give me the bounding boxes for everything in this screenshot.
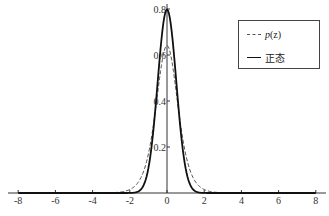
solid-line-swatch-icon	[247, 57, 261, 58]
y-tick-label: 0.2	[154, 142, 167, 153]
x-tick-label: 2	[202, 195, 207, 206]
y-ticks: 0.20.40.60.8	[154, 4, 171, 153]
legend-label-pz-suffix: (z)	[270, 29, 281, 40]
x-tick-label: 6	[276, 195, 281, 206]
x-tick-label: -2	[126, 195, 134, 206]
x-tick-label: 0	[165, 195, 170, 206]
y-tick-label: 0.8	[154, 4, 167, 15]
dashed-line-swatch-icon	[247, 34, 261, 35]
legend-item-pz: p(z)	[247, 29, 281, 40]
legend: p(z) 正态	[238, 20, 320, 69]
legend-item-normal: 正态	[247, 50, 285, 65]
x-tick-label: 4	[239, 195, 244, 206]
x-tick-label: 8	[313, 195, 318, 206]
x-tick-label: -8	[14, 195, 22, 206]
x-tick-label: -6	[51, 195, 59, 206]
x-tick-label: -4	[88, 195, 96, 206]
legend-label-normal: 正态	[265, 50, 285, 65]
